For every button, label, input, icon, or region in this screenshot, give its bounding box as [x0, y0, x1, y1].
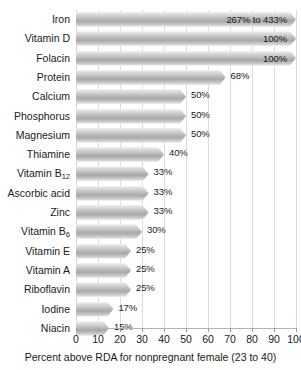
bar-value-label: 40%	[164, 145, 188, 160]
bar-row: 50%	[76, 107, 301, 126]
bar-value-label: 30%	[142, 222, 166, 237]
x-tick-90	[274, 328, 275, 332]
bar-fill	[76, 282, 131, 297]
bar-fill	[76, 244, 131, 259]
x-tick-10	[98, 328, 99, 332]
category-label: Vitamin E	[0, 242, 70, 261]
bar	[76, 109, 186, 124]
bar-value-label: 33%	[149, 203, 173, 218]
bar-value-label: 50%	[186, 126, 210, 141]
category-label: Phosphorus	[0, 107, 70, 126]
category-label: Calcium	[0, 87, 70, 106]
bar-row: 33%	[76, 184, 301, 203]
bar-value-label: 25%	[131, 261, 155, 276]
bar-fill	[76, 109, 186, 124]
x-axis-title: Percent above RDA for nonpregnant female…	[0, 351, 301, 363]
x-tick-100	[296, 328, 297, 332]
x-tick-0	[76, 328, 77, 332]
bar-value-label: 100%	[263, 31, 287, 46]
bar-fill	[76, 224, 142, 239]
bar-value-label: 50%	[186, 87, 210, 102]
bar-value-label: 50%	[186, 107, 210, 122]
category-label: Ascorbic acid	[0, 184, 70, 203]
bar-row: 30%	[76, 222, 301, 241]
bar-fill	[76, 147, 164, 162]
bar	[76, 186, 149, 201]
bar-row: 68%	[76, 68, 301, 87]
x-tick-40	[164, 328, 165, 332]
category-label: Vitamin D	[0, 29, 70, 48]
x-tick-60	[208, 328, 209, 332]
bar-value-label: 25%	[131, 280, 155, 295]
bar-rows: 267% to 433%100%100%68%50%50%50%40%33%33…	[76, 10, 297, 328]
bar-row: 100%	[76, 29, 301, 48]
bar	[76, 128, 186, 143]
bar-row: 100%	[76, 49, 301, 68]
category-label: Vitamin B6	[0, 222, 70, 241]
category-label: Iodine	[0, 300, 70, 319]
bar-row: 25%	[76, 280, 301, 299]
bar: 100%	[76, 51, 296, 66]
category-label: Vitamin A	[0, 261, 70, 280]
bar-fill	[76, 128, 186, 143]
category-label: Magnesium	[0, 126, 70, 145]
category-label: Riboflavin	[0, 280, 70, 299]
category-label: Niacin	[0, 319, 70, 338]
x-tick-50	[186, 328, 187, 332]
bar-fill	[76, 70, 226, 85]
bar-fill	[76, 205, 149, 220]
bar	[76, 263, 131, 278]
bar-value-label: 100%	[263, 51, 287, 66]
category-label: Thiamine	[0, 145, 70, 164]
bar	[76, 70, 226, 85]
bar-fill	[76, 186, 149, 201]
category-label: Protein	[0, 68, 70, 87]
bar	[76, 147, 164, 162]
bar	[76, 89, 186, 104]
bar: 267% to 433%	[76, 12, 296, 27]
bar-value-label: 33%	[149, 184, 173, 199]
category-label: Zinc	[0, 203, 70, 222]
horizontal-bar-chart: IronVitamin DFolacinProteinCalciumPhosph…	[0, 0, 301, 370]
bar-value-label: 267% to 433%	[226, 12, 287, 27]
bar-fill	[76, 302, 113, 317]
x-tick-20	[120, 328, 121, 332]
bar	[76, 282, 131, 297]
bar	[76, 302, 113, 317]
category-label: Vitamin B12	[0, 164, 70, 183]
bar-row: 25%	[76, 261, 301, 280]
x-tick-30	[142, 328, 143, 332]
bar-fill	[76, 166, 149, 181]
bar-fill	[76, 89, 186, 104]
bar-row: 50%	[76, 126, 301, 145]
bar-row: 33%	[76, 203, 301, 222]
bar-row: 17%	[76, 300, 301, 319]
bar	[76, 244, 131, 259]
bar-value-label: 33%	[149, 164, 173, 179]
bar	[76, 205, 149, 220]
bar-row: 50%	[76, 87, 301, 106]
bar-row: 267% to 433%	[76, 10, 301, 29]
bar-row: 25%	[76, 242, 301, 261]
bar	[76, 166, 149, 181]
bar: 100%	[76, 31, 296, 46]
category-label: Iron	[0, 10, 70, 29]
bar-value-label: 68%	[226, 68, 250, 83]
bar-value-label: 17%	[113, 300, 137, 315]
bar-row: 33%	[76, 164, 301, 183]
bar	[76, 224, 142, 239]
x-tick-70	[230, 328, 231, 332]
plot-area: 267% to 433%100%100%68%50%50%50%40%33%33…	[76, 10, 297, 328]
bar-value-label: 25%	[131, 242, 155, 257]
x-tick-80	[252, 328, 253, 332]
x-tick-label: 100	[281, 333, 301, 345]
bar-row: 40%	[76, 145, 301, 164]
bar-fill	[76, 263, 131, 278]
category-axis-labels: IronVitamin DFolacinProteinCalciumPhosph…	[0, 10, 70, 328]
category-label: Folacin	[0, 49, 70, 68]
